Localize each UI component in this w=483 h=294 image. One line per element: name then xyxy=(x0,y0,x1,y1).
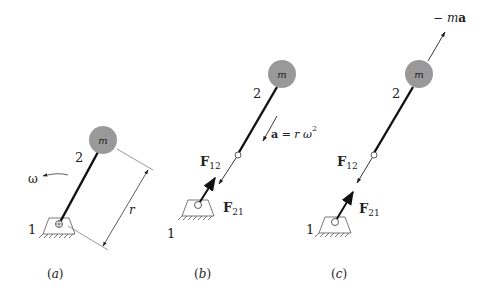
f12-label: F12 xyxy=(200,154,221,171)
mid-joint xyxy=(371,152,377,158)
force-f21-arrow xyxy=(335,192,353,222)
mid-joint xyxy=(235,152,241,158)
f12-label: F12 xyxy=(337,154,358,171)
radius-dimension xyxy=(103,170,148,246)
acceleration-label: a = r ω2 xyxy=(271,124,317,141)
rotation-arrow-icon xyxy=(43,174,68,176)
ground-label: 1 xyxy=(167,226,175,241)
ground-label: 1 xyxy=(28,222,36,237)
caption-c: (c) xyxy=(331,267,347,281)
mass-label: m xyxy=(277,69,286,80)
ground-label: 1 xyxy=(306,222,314,237)
mass-label: m xyxy=(98,135,107,146)
panel-a: m 2 1 ω r (a) xyxy=(28,126,153,281)
rotating-link-diagram: m 2 1 ω r (a) m 2 F12 F21 a = r ω2 1 (b) xyxy=(0,0,483,294)
caption-a: (a) xyxy=(47,267,64,281)
panel-b: m 2 F12 F21 a = r ω2 1 (b) xyxy=(167,60,317,281)
link-label: 2 xyxy=(75,150,83,165)
link-label: 2 xyxy=(253,86,261,101)
f21-label: F21 xyxy=(359,201,380,218)
inertia-force-label: − ma xyxy=(433,11,466,25)
f21-label: F21 xyxy=(223,200,244,217)
radius-label: r xyxy=(129,203,136,217)
inertia-force-arrow xyxy=(428,32,445,61)
force-f21-arrow xyxy=(198,178,215,205)
force-f12-arrow xyxy=(357,158,372,183)
panel-c: m 2 − ma F12 F21 1 (c) xyxy=(306,11,466,281)
mass-label: m xyxy=(414,69,423,80)
omega-label: ω xyxy=(28,172,38,186)
link-label: 2 xyxy=(392,86,400,101)
caption-b: (b) xyxy=(194,267,211,281)
force-f12-arrow xyxy=(219,158,236,184)
